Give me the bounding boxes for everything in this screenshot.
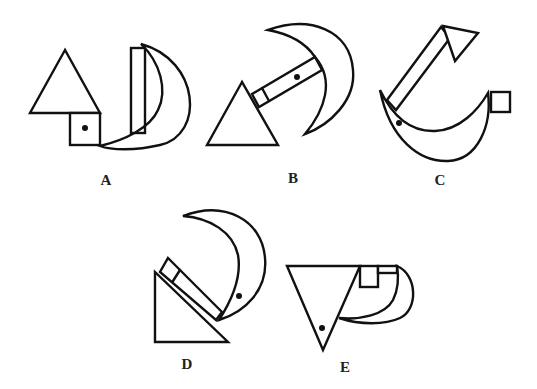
square-icon: [360, 266, 378, 287]
option-label-c: C: [435, 172, 446, 189]
bar-icon: [378, 266, 397, 273]
bar-icon: [387, 27, 450, 110]
triangle-icon: [30, 50, 100, 113]
dot-icon: [236, 293, 242, 299]
arrow-triangle-icon: [443, 26, 478, 61]
bar-icon: [252, 57, 322, 107]
dot-icon: [294, 74, 300, 80]
figure-a[interactable]: [30, 44, 190, 149]
figure-e[interactable]: [287, 266, 413, 350]
option-label-a: A: [101, 172, 112, 189]
option-label-e: E: [340, 359, 350, 376]
option-label-b: B: [288, 170, 298, 187]
figure-b[interactable]: [207, 24, 353, 145]
dot-icon: [396, 120, 402, 126]
square-icon: [491, 92, 510, 112]
puzzle-canvas: [0, 0, 537, 389]
bar-icon: [131, 48, 145, 133]
figure-c[interactable]: [380, 26, 510, 161]
figure-d[interactable]: [155, 210, 265, 342]
dot-icon: [319, 325, 325, 331]
inverted-triangle-icon: [287, 266, 360, 350]
option-label-d: D: [182, 356, 193, 373]
dot-icon: [82, 125, 88, 131]
